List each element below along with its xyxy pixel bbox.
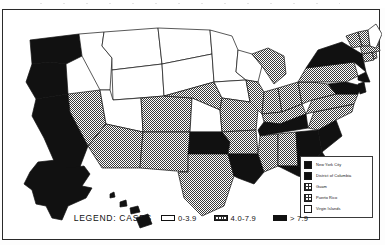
state-washington	[30, 34, 82, 64]
legend-key-mid: 4.0-7.9	[214, 214, 256, 223]
state-wyoming	[112, 64, 164, 100]
figure-frame: New York City District of Columbia Guam …	[2, 9, 380, 240]
legend-title: LEGEND: CASES	[74, 213, 152, 223]
figure-container: New York City District of Columbia Guam …	[0, 0, 385, 245]
state-alaska	[24, 160, 92, 220]
swatch-mid-icon	[214, 215, 228, 221]
state-new-jersey	[358, 72, 370, 82]
territories-legend: New York City District of Columbia Guam …	[300, 156, 373, 218]
swatch-high-icon	[304, 172, 312, 180]
legend-key-low: 0-3.9	[161, 214, 197, 223]
scan-top-edge	[0, 0, 385, 8]
state-new-mexico	[140, 132, 190, 172]
state-louisiana	[228, 154, 264, 184]
legend-item-label: Puerto Rico	[316, 196, 337, 200]
swatch-mid-icon	[304, 194, 312, 202]
state-colorado	[141, 96, 192, 132]
state-alabama	[278, 132, 298, 166]
swatch-low-icon	[304, 205, 312, 213]
legend-item-guam: Guam	[304, 182, 370, 192]
legend-item-puerto-rico: Puerto Rico	[304, 193, 370, 203]
swatch-low-icon	[161, 215, 175, 221]
swatch-high-icon	[273, 215, 287, 221]
state-oregon	[26, 62, 68, 99]
legend-item-label: Virgin Islands	[316, 207, 340, 211]
state-oklahoma	[188, 132, 230, 154]
legend-item-label: New York City	[316, 163, 341, 167]
legend-key-label: 4.0-7.9	[231, 214, 256, 223]
swatch-high-icon	[304, 161, 312, 169]
legend-item-label: Guam	[316, 185, 327, 189]
swatch-mid-icon	[304, 183, 312, 191]
legend-key-high: > 7.9	[273, 214, 308, 223]
legend-key-label: 0-3.9	[178, 214, 197, 223]
legend-item-new-york-city: New York City	[304, 160, 370, 170]
legend-bar: LEGEND: CASES 0-3.9 4.0-7.9 > 7.9	[3, 213, 379, 223]
legend-item-label: District of Columbia	[316, 174, 351, 178]
legend-item-district-of-columbia: District of Columbia	[304, 171, 370, 181]
legend-key-label: > 7.9	[290, 214, 308, 223]
state-maine	[368, 24, 382, 48]
